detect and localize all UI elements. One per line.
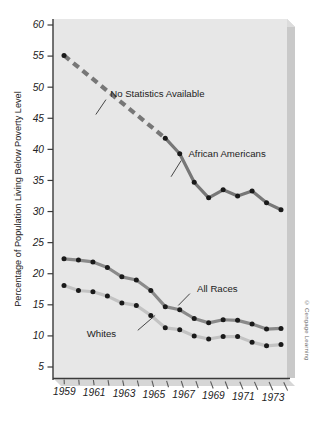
data-point	[279, 342, 284, 347]
poverty-line-chart: 60555045403530252015105 1959196119631965…	[0, 0, 322, 422]
data-point	[177, 307, 182, 312]
data-point	[235, 194, 240, 199]
data-point	[119, 300, 124, 305]
y-tick-label: 55	[33, 50, 45, 61]
data-point	[221, 187, 226, 192]
y-tick-label: 35	[33, 175, 45, 186]
y-tick-label: 10	[33, 330, 45, 341]
series-label: All Races	[197, 283, 238, 294]
x-tick-label: 1969	[202, 390, 225, 401]
y-tick-label: 30	[33, 206, 45, 217]
y-tick-label: 45	[33, 113, 45, 124]
data-point	[192, 180, 197, 185]
x-axis-tick-labels: 19591961196319651967196919711973	[53, 386, 285, 403]
data-point	[250, 322, 255, 327]
panel-bottom-face	[53, 378, 295, 386]
data-point	[221, 334, 226, 339]
series-label: Whites	[87, 328, 117, 339]
data-point	[90, 259, 95, 264]
no-statistics-available-label: No Statistics Available	[110, 88, 204, 99]
data-point	[148, 288, 153, 293]
x-tick-label: 1967	[172, 389, 195, 400]
data-point	[105, 265, 110, 270]
data-point	[62, 256, 67, 261]
y-tick-label: 20	[32, 268, 45, 279]
data-point	[235, 318, 240, 323]
data-point	[206, 195, 211, 200]
series-label: African Americans	[188, 148, 266, 159]
x-tick	[93, 380, 94, 385]
x-tick-label: 1965	[142, 389, 165, 400]
data-point	[192, 316, 197, 321]
data-point	[192, 333, 197, 338]
data-point	[279, 207, 284, 212]
panel-right-face	[287, 19, 295, 378]
y-tick-label: 5	[38, 361, 44, 372]
x-tick-label: 1971	[232, 391, 255, 402]
y-tick-label: 50	[33, 82, 45, 93]
data-point	[250, 189, 255, 194]
data-point	[264, 343, 269, 348]
data-point	[105, 294, 110, 299]
data-point	[163, 136, 168, 141]
data-point	[163, 304, 168, 309]
data-point	[250, 340, 255, 345]
x-tick-label: 1959	[53, 386, 76, 397]
y-axis-ticks	[48, 25, 54, 367]
x-tick-label: 1973	[262, 392, 285, 403]
x-tick-label: 1963	[113, 388, 136, 399]
copyright-notice: © Cengage Learning	[304, 300, 310, 361]
data-point	[221, 317, 226, 322]
data-point	[76, 258, 81, 263]
data-point	[235, 334, 240, 339]
data-point	[206, 337, 211, 342]
data-point	[177, 327, 182, 332]
data-point	[206, 320, 211, 325]
data-point	[134, 303, 139, 308]
y-axis-title: Percentage of Population Living Below Po…	[13, 91, 23, 307]
y-tick-label: 25	[32, 237, 45, 248]
data-point	[264, 327, 269, 332]
y-tick-label: 60	[33, 19, 45, 30]
x-tick-label: 1961	[83, 387, 106, 398]
data-point	[177, 151, 182, 156]
y-axis-tick-labels: 60555045403530252015105	[32, 19, 45, 372]
data-point	[62, 53, 67, 58]
data-point	[163, 325, 168, 330]
data-point	[279, 326, 284, 331]
data-point	[134, 277, 139, 282]
data-point	[90, 289, 95, 294]
data-point	[76, 288, 81, 293]
data-point	[62, 283, 67, 288]
y-tick-label: 15	[33, 299, 45, 310]
data-point	[119, 274, 124, 279]
y-tick-label: 40	[33, 144, 45, 155]
data-point	[264, 200, 269, 205]
chart-figure: 60555045403530252015105 1959196119631965…	[0, 0, 322, 422]
